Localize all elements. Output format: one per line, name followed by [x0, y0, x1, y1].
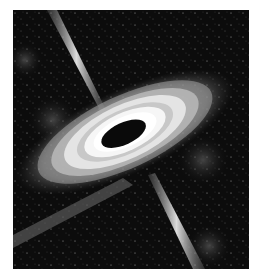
illustration-canvas: [13, 10, 249, 269]
black-hole-illustration: [13, 10, 249, 269]
